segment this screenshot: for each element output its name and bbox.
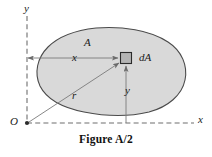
x-axis-label: x — [198, 114, 203, 125]
r-radius-label: r — [72, 90, 76, 101]
figure-caption: Figure A/2 — [0, 133, 212, 145]
y-axis-label: y — [24, 3, 29, 14]
origin-label: O — [10, 116, 18, 127]
differential-area-element — [121, 53, 132, 64]
x-distance-label: x — [72, 52, 77, 63]
differential-area-label: dA — [139, 52, 151, 63]
y-distance-label: y — [125, 85, 130, 96]
origin-point-marker — [25, 121, 29, 125]
figure-container: y x O A x y r dA Figure A/2 — [0, 0, 212, 157]
area-label: A — [84, 37, 91, 48]
